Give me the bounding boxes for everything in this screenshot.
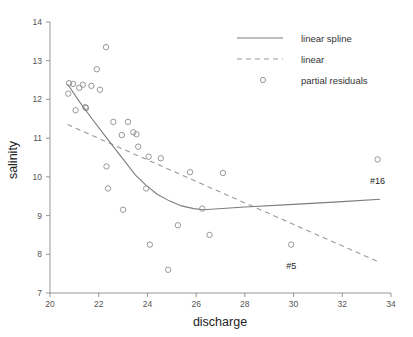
chart-figure: 2022242628303234 7891011121314 discharge… [0,0,413,337]
data-point-marker [104,164,109,169]
y-tick-label: 12 [33,94,43,104]
data-point-marker [103,44,108,49]
y-tick-label: 11 [33,133,42,143]
data-point-marker [89,83,94,88]
data-point-marker [97,87,102,92]
data-point-marker [165,267,170,272]
point-annotation-label: #16 [370,176,385,186]
x-tick-label: 24 [143,299,153,309]
data-point-marker [144,186,149,191]
legend-swatch-partial-residuals [260,77,265,82]
linear-path [68,125,379,262]
data-point-marker [80,82,85,87]
data-point-marker [120,207,125,212]
x-tick-label: 32 [338,299,348,309]
y-tick-label: 13 [33,56,43,66]
data-point-marker [135,144,140,149]
data-point-marker [146,154,151,159]
y-tick-label: 10 [33,172,43,182]
y-tick-label: 8 [37,249,42,259]
data-point-marker [147,242,152,247]
data-point-marker [66,91,71,96]
x-axis-title: discharge [193,315,247,329]
data-point-marker [105,186,110,191]
y-tick-label: 14 [33,17,43,27]
data-point-marker [119,132,124,137]
point-annotation-label: #5 [286,261,296,271]
data-point-marker [73,108,78,113]
legend-label-linear-spline: linear spline [301,33,352,44]
data-point-marker [288,242,293,247]
data-point-marker [125,119,130,124]
data-point-marker [187,170,192,175]
x-tick-label: 30 [289,299,299,309]
y-tick-label: 7 [37,288,42,298]
data-point-marker [207,232,212,237]
data-point-marker [220,170,225,175]
data-point-marker [94,67,99,72]
data-point-marker [111,119,116,124]
data-point-marker [200,206,205,211]
x-tick-label: 22 [94,299,104,309]
x-tick-label: 20 [45,299,55,309]
legend-label-partial-residuals: partial residuals [301,75,368,86]
x-tick-label: 26 [191,299,201,309]
data-point-marker [375,157,380,162]
axes-group [50,22,391,293]
scatter-plot-svg: 2022242628303234 7891011121314 discharge… [0,0,413,337]
x-tick-label: 34 [386,299,396,309]
y-axis-title: salinity [6,140,20,179]
chart-legend: linear spline linear partial residuals [237,33,368,86]
spline-path [68,84,381,210]
data-point-marker [175,223,180,228]
y-tick-label: 9 [37,211,42,221]
legend-label-linear: linear [301,54,324,65]
series-linear-spline-line [68,84,381,210]
point-annotations: #16#5 [286,176,385,271]
y-axis-ticks: 7891011121314 [33,17,50,298]
data-point-marker [77,85,82,90]
series-linear-line [68,125,379,262]
x-axis-ticks: 2022242628303234 [45,293,396,309]
x-tick-label: 28 [240,299,250,309]
data-point-marker [158,156,163,161]
